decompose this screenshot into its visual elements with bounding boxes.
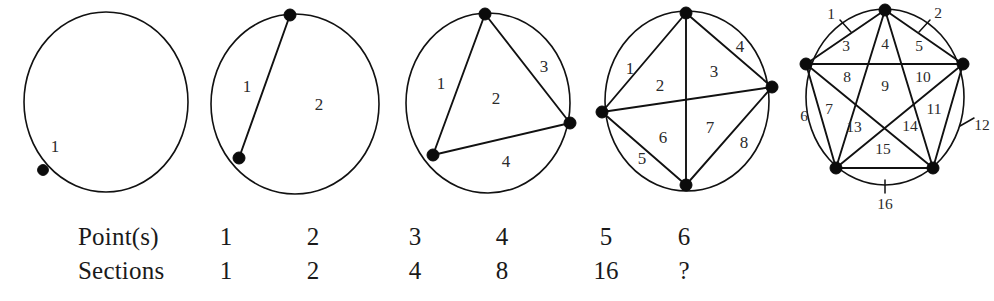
- circle-diagram-row: 1 1 2 1 2: [0, 0, 994, 215]
- circle-point: [596, 106, 608, 118]
- region-label: 1: [626, 59, 635, 78]
- region-label: 4: [502, 152, 511, 171]
- leader-line-region-2: [919, 20, 930, 32]
- region-label: 2: [492, 89, 501, 108]
- points-cell: 5: [583, 220, 629, 254]
- region-label: 12: [974, 116, 990, 133]
- sections-cell: 8: [479, 254, 525, 288]
- chord: [836, 64, 963, 168]
- region-label: 4: [736, 37, 745, 56]
- leader-line-region-1: [840, 20, 851, 32]
- region-label: 7: [825, 100, 833, 117]
- circle-point: [927, 162, 939, 174]
- chord: [686, 87, 772, 185]
- circle-1-point: 1: [0, 0, 200, 210]
- points-sections-table: Point(s) 1 2 3 4 5 6 Sections 1 2 4 8 16…: [0, 212, 994, 301]
- sections-cell: 2: [290, 254, 336, 288]
- circle-2-points: 1 2: [195, 0, 400, 210]
- circle-point: [680, 179, 692, 191]
- region-label: 1: [827, 5, 835, 22]
- region-label: 8: [843, 68, 851, 85]
- region-label: 6: [659, 128, 668, 147]
- region-label: 3: [710, 62, 719, 81]
- chord: [885, 10, 963, 64]
- chord: [602, 87, 772, 112]
- points-cell: 4: [479, 220, 525, 254]
- chord: [433, 123, 570, 155]
- region-label: 2: [315, 95, 324, 114]
- region-label: 11: [927, 100, 942, 117]
- circle-outline: [406, 13, 570, 193]
- circle-point: [38, 165, 49, 176]
- circle-3-points: 1 2 3 4: [388, 0, 598, 210]
- region-label: 3: [540, 57, 549, 76]
- table-row-sections: Sections 1 2 4 8 16 ?: [0, 254, 994, 288]
- region-label: 4: [881, 35, 889, 52]
- chord: [885, 10, 933, 168]
- circle-point: [427, 149, 439, 161]
- region-label: 8: [740, 133, 749, 152]
- region-label: 1: [437, 74, 446, 93]
- region-label: 1: [51, 137, 60, 156]
- points-cell: 3: [392, 220, 438, 254]
- region-label: 2: [656, 76, 665, 95]
- region-label: 7: [706, 118, 715, 137]
- region-label: 1: [243, 77, 252, 96]
- circle-point: [830, 162, 842, 174]
- circle-outline: [605, 11, 769, 191]
- sections-cell-unknown: ?: [661, 254, 707, 288]
- region-label: 5: [915, 37, 923, 54]
- chord: [602, 13, 686, 112]
- sections-cell: 4: [392, 254, 438, 288]
- circle-point: [233, 152, 245, 164]
- points-cell: 1: [203, 220, 249, 254]
- row-label-sections: Sections: [78, 254, 164, 288]
- circle-point: [957, 58, 969, 70]
- points-cell: 6: [661, 220, 707, 254]
- region-label: 6: [800, 107, 808, 124]
- circle-point: [879, 4, 891, 16]
- region-label: 15: [875, 140, 891, 157]
- region-label: 9: [881, 77, 889, 94]
- circle-outline: [24, 12, 188, 192]
- circle-point: [479, 8, 491, 20]
- region-label: 13: [846, 118, 862, 135]
- region-label: 2: [934, 4, 942, 21]
- circle-5-points: 1 2 3 4 5 6 7 8 9 10 11 12 13 14 15 16: [788, 0, 994, 212]
- region-label: 10: [915, 68, 931, 85]
- region-label: 5: [638, 149, 647, 168]
- row-label-points: Point(s): [78, 220, 159, 254]
- circle-point: [680, 7, 692, 19]
- sections-cell: 1: [203, 254, 249, 288]
- sections-cell: 16: [583, 254, 629, 288]
- circle-outline: [211, 14, 379, 194]
- table-row-points: Point(s) 1 2 3 4 5 6: [0, 220, 994, 254]
- circle-4-points: 1 2 3 4 5 6 7 8: [583, 0, 798, 210]
- region-label: 16: [877, 195, 893, 212]
- region-label: 14: [902, 117, 918, 134]
- points-cell: 2: [290, 220, 336, 254]
- circle-point: [284, 9, 296, 21]
- region-label: 3: [842, 37, 850, 54]
- figure-sheet: 1 1 2 1 2: [0, 0, 994, 301]
- circle-point: [564, 117, 576, 129]
- circle-point: [766, 81, 778, 93]
- circle-point: [800, 58, 812, 70]
